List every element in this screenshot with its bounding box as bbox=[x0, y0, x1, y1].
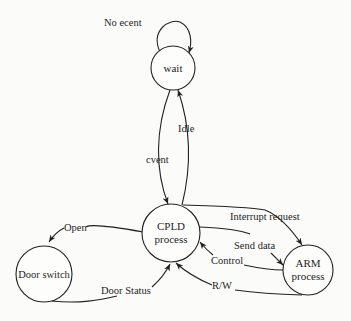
edge-label-event: cvent bbox=[146, 154, 169, 165]
edge-rw bbox=[235, 290, 302, 295]
edge-idle bbox=[178, 90, 188, 205]
edge-event bbox=[158, 90, 170, 204]
node-door-label: Door switch bbox=[18, 269, 70, 280]
edge-send-data bbox=[200, 227, 250, 234]
node-cpld-label-1: CPLD bbox=[157, 220, 185, 232]
edge-label-door-status: Door Status bbox=[101, 285, 151, 296]
node-wait-label: wait bbox=[164, 62, 183, 74]
edge-door-status bbox=[52, 296, 117, 302]
edge-label-no-event: No ecent bbox=[104, 17, 142, 28]
edge-label-send-data: Send data bbox=[234, 240, 275, 251]
node-cpld-label-2: process bbox=[155, 233, 188, 245]
edge-label-rw: R/W bbox=[212, 280, 232, 291]
diagram-svg: No ecent wait Idle cvent Open Door Statu… bbox=[0, 0, 351, 321]
state-diagram: No ecent wait Idle cvent Open Door Statu… bbox=[0, 0, 351, 321]
node-arm-label-1: ARM bbox=[295, 257, 320, 269]
edge-label-idle: Idle bbox=[178, 123, 195, 134]
node-arm-label-2: process bbox=[292, 270, 325, 282]
edge-label-interrupt: Interrupt request bbox=[230, 211, 300, 222]
edge-open bbox=[86, 226, 143, 232]
edge-label-control: Control bbox=[211, 255, 243, 266]
edge-label-open: Open bbox=[64, 222, 87, 233]
edge-control bbox=[244, 265, 283, 270]
